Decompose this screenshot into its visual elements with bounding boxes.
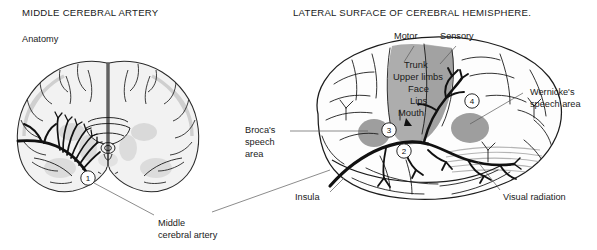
marker-3: 3	[382, 123, 396, 137]
coronal-brain: 1	[17, 61, 198, 191]
homunculus-face: Face	[408, 84, 429, 95]
wernickes-label-line2: speech area	[530, 99, 581, 109]
brocas-label-line2: speech	[245, 137, 275, 147]
svg-text:1: 1	[86, 174, 91, 183]
svg-text:3: 3	[387, 126, 392, 135]
wernickes-label-line1: Wernicke's	[530, 87, 574, 97]
leader-mca-to-lateral	[212, 170, 330, 212]
sensory-label: Sensory	[440, 31, 474, 41]
insula-label: Insula	[295, 192, 320, 202]
svg-text:4: 4	[470, 97, 475, 106]
homunculus-mouth: Mouth	[398, 108, 424, 119]
mca-callout-line2: cerebral artery	[158, 230, 217, 240]
marker-4: 4	[465, 94, 479, 108]
svg-text:2: 2	[402, 147, 407, 156]
anatomy-illustration: 1	[0, 0, 597, 250]
visual-radiation-label: Visual radiation	[503, 192, 566, 202]
brocas-label-line1: Broca's	[245, 125, 275, 135]
marker-2: 2	[397, 144, 411, 158]
homunculus-lips: Lips	[410, 96, 427, 107]
figure-canvas: 1	[0, 0, 597, 250]
homunculus-upper-limbs: Upper limbs	[393, 72, 443, 83]
brocas-label-line3: area	[245, 149, 263, 159]
motor-label: Motor	[394, 31, 418, 41]
marker-1: 1	[81, 171, 95, 185]
mca-callout-line1: Middle	[158, 218, 185, 228]
right-panel-title: LATERAL SURFACE OF CEREBRAL HEMISPHERE.	[293, 8, 531, 19]
homunculus-trunk: Trunk	[404, 60, 428, 71]
wernickes-area-shade	[451, 113, 489, 143]
left-panel-title: MIDDLE CEREBRAL ARTERY	[22, 8, 158, 19]
left-panel-subtitle: Anatomy	[22, 34, 58, 44]
lateral-hemisphere: 2 3 4	[317, 37, 561, 200]
